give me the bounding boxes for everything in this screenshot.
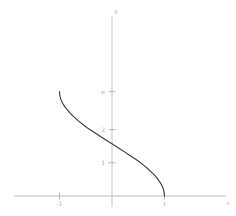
y-axis-label: y: [113, 7, 118, 15]
x-tick-label: 1: [163, 200, 167, 207]
y-tick-label: 1: [101, 159, 105, 166]
y-tick-label: π: [101, 88, 105, 95]
chart-background: [0, 0, 236, 216]
y-tick-label: 2: [101, 126, 105, 133]
plot-area: 12π -11 y x: [0, 0, 236, 216]
x-tick-label: -1: [57, 200, 63, 207]
chart-svg: 12π -11 y x: [0, 0, 236, 216]
